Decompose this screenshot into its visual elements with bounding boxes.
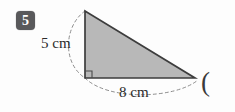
triangle-figure <box>0 0 235 112</box>
trailing-parenthesis: ( <box>201 69 210 96</box>
base-label: 8 cm <box>119 85 149 100</box>
worksheet-figure-page: 5 5 cm 8 cm ( <box>0 0 235 112</box>
height-label: 5 cm <box>41 36 71 51</box>
triangle-shape <box>85 11 195 78</box>
